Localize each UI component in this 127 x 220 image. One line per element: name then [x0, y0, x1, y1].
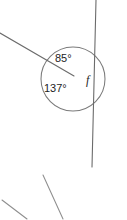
figure-canvas: 85° 137° f — [0, 0, 127, 220]
angle-label-lower: 137° — [44, 82, 67, 94]
geometry-figure: 85° 137° f — [0, 0, 127, 220]
angle-label-upper: 85° — [55, 52, 72, 64]
